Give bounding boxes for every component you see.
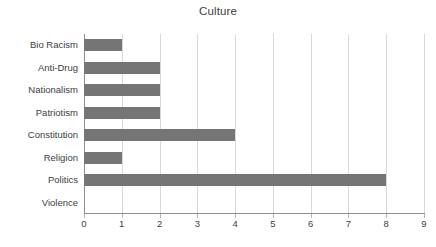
x-tick-label: 5: [263, 218, 283, 229]
x-tick-label: 8: [376, 218, 396, 229]
bar-row: [84, 124, 424, 147]
y-axis-label: Religion: [4, 152, 78, 163]
bar: [84, 174, 386, 186]
x-tick-label: 0: [74, 218, 94, 229]
bar-row: [84, 192, 424, 215]
bar-row: [84, 34, 424, 57]
plot-area: [84, 34, 424, 214]
bar: [84, 62, 160, 74]
gridline-9: [424, 34, 425, 214]
bar: [84, 107, 160, 119]
bar-chart: Culture Bio RacismAnti-DrugNationalismPa…: [0, 0, 436, 247]
chart-title: Culture: [0, 5, 436, 17]
x-tick-label: 1: [112, 218, 132, 229]
y-axis-label: Constitution: [4, 129, 78, 140]
bar-row: [84, 169, 424, 192]
bar: [84, 129, 235, 141]
y-axis-label: Bio Racism: [4, 39, 78, 50]
bar-row: [84, 147, 424, 170]
y-axis-label: Anti-Drug: [4, 62, 78, 73]
x-tick-label: 2: [150, 218, 170, 229]
y-axis-label: Nationalism: [4, 84, 78, 95]
y-axis-label: Politics: [4, 174, 78, 185]
bar-row: [84, 102, 424, 125]
x-tick-label: 4: [225, 218, 245, 229]
x-tick-label: 7: [338, 218, 358, 229]
caption-sliver: [8, 239, 308, 247]
bar: [84, 39, 122, 51]
bar: [84, 152, 122, 164]
y-axis-label: Violence: [4, 197, 78, 208]
x-axis-line: [84, 213, 425, 214]
x-tick-label: 3: [187, 218, 207, 229]
y-axis-label: Patriotism: [4, 107, 78, 118]
x-tick-label: 9: [414, 218, 434, 229]
bar: [84, 84, 160, 96]
bar-row: [84, 57, 424, 80]
bar-row: [84, 79, 424, 102]
x-tick-label: 6: [301, 218, 321, 229]
